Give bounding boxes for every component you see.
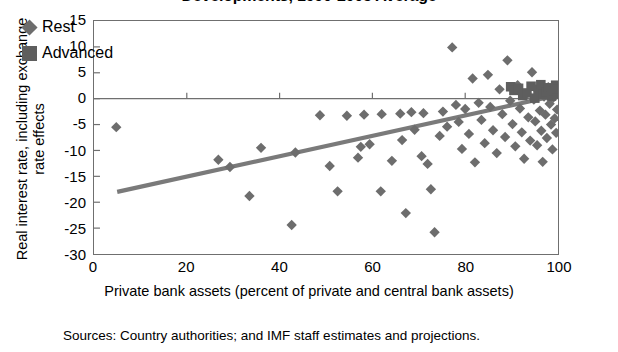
data-point-diamond — [519, 154, 529, 164]
data-point-diamond — [356, 142, 366, 152]
y-tick-label: 0 — [42, 90, 86, 105]
square-marker-icon — [22, 46, 37, 61]
data-point-square — [530, 93, 540, 103]
data-point-diamond — [244, 191, 254, 201]
chart-legend: RestAdvanced — [22, 14, 113, 66]
x-tick-label: 0 — [63, 258, 123, 276]
data-point-diamond — [510, 141, 520, 151]
data-point-diamond — [480, 138, 490, 148]
y-tick-label: -10 — [42, 143, 86, 158]
legend-entry-rest[interactable]: Rest — [22, 14, 113, 40]
data-point-diamond — [435, 131, 445, 141]
data-point-diamond — [397, 135, 407, 145]
data-point-diamond — [364, 139, 374, 149]
data-point-diamond — [377, 109, 387, 119]
data-point-diamond — [502, 55, 512, 65]
data-point-diamond — [256, 143, 266, 153]
x-tick-label: 100 — [529, 258, 589, 276]
legend-label: Rest — [42, 19, 75, 35]
data-point-diamond — [416, 151, 426, 161]
y-tick-label: -20 — [42, 195, 86, 210]
data-point-diamond — [476, 115, 486, 125]
y-tick-label: 5 — [42, 64, 86, 79]
data-point-diamond — [497, 109, 507, 119]
x-tick-label: 40 — [249, 258, 309, 276]
data-point-diamond — [332, 186, 342, 196]
data-point-diamond — [376, 186, 386, 196]
plot-area — [93, 20, 559, 255]
data-point-diamond — [467, 73, 477, 83]
data-point-diamond — [359, 110, 369, 120]
data-point-diamond — [500, 132, 510, 142]
data-point-diamond — [111, 122, 121, 132]
y-tick-label: -15 — [42, 169, 86, 184]
data-point-square — [553, 84, 558, 94]
data-point-diamond — [488, 125, 498, 135]
data-point-diamond — [213, 155, 223, 165]
legend-label: Advanced — [42, 45, 113, 61]
data-point-diamond — [290, 147, 300, 157]
data-point-diamond — [395, 109, 405, 119]
data-point-diamond — [536, 126, 546, 136]
data-point-diamond — [492, 148, 502, 158]
x-axis-title: Private bank assets (percent of private … — [0, 283, 618, 299]
data-point-diamond — [457, 144, 467, 154]
data-point-diamond — [538, 157, 548, 167]
data-point-diamond — [451, 100, 461, 110]
data-point-diamond — [225, 162, 235, 172]
source-note: Sources: Country authorities; and IMF st… — [63, 328, 618, 343]
x-axis-tick-labels: 020406080100 — [93, 258, 559, 280]
data-point-diamond — [470, 157, 480, 167]
data-point-diamond — [315, 110, 325, 120]
series-rest — [111, 42, 558, 237]
legend-entry-advanced[interactable]: Advanced — [22, 40, 113, 66]
data-point-diamond — [342, 111, 352, 121]
data-point-diamond — [325, 161, 335, 171]
data-point-diamond — [429, 227, 439, 237]
data-point-diamond — [494, 84, 504, 94]
data-point-diamond — [418, 108, 428, 118]
y-tick-label: -25 — [42, 221, 86, 236]
data-point-diamond — [527, 67, 537, 77]
scatter-plot-canvas — [94, 21, 558, 254]
data-point-diamond — [353, 153, 363, 163]
data-point-diamond — [286, 220, 296, 230]
data-point-diamond — [517, 127, 527, 137]
data-point-diamond — [464, 129, 474, 139]
chart-title: Developments, 1990-2005 Average — [0, 0, 618, 5]
data-point-diamond — [551, 128, 558, 138]
y-tick-label: -5 — [42, 116, 86, 131]
data-point-diamond — [426, 184, 436, 194]
data-point-diamond — [422, 159, 432, 169]
data-point-diamond — [406, 107, 416, 117]
data-point-diamond — [442, 121, 452, 131]
x-tick-label: 80 — [436, 258, 496, 276]
data-point-diamond — [447, 42, 457, 52]
data-point-diamond — [483, 70, 493, 80]
data-point-diamond — [438, 106, 448, 116]
data-point-diamond — [542, 133, 552, 143]
diamond-marker-icon — [21, 19, 37, 35]
data-point-diamond — [401, 208, 411, 218]
chart-figure: Developments, 1990-2005 Average Real int… — [0, 0, 618, 352]
data-point-diamond — [507, 119, 517, 129]
data-point-diamond — [547, 144, 557, 154]
x-tick-label: 20 — [156, 258, 216, 276]
x-tick-label: 60 — [343, 258, 403, 276]
data-point-diamond — [552, 104, 558, 114]
data-point-diamond — [387, 156, 397, 166]
